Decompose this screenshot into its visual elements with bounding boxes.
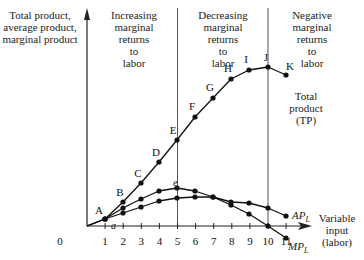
y-axis-label: Total product, average product, marginal… xyxy=(0,9,80,45)
data-point xyxy=(210,194,215,199)
region-label-line: to xyxy=(272,45,352,57)
data-point xyxy=(102,216,107,221)
region-label-line: marginal xyxy=(95,21,173,33)
tp-label-line: product xyxy=(276,102,336,114)
region-label-decreasing: Decreasing marginal returns to labor xyxy=(180,9,266,69)
data-points xyxy=(102,64,288,240)
curves xyxy=(87,67,286,238)
y-axis-label-line: Total product, xyxy=(0,9,80,21)
data-point xyxy=(192,194,197,199)
data-point xyxy=(138,196,143,201)
x-tick-label: 5 xyxy=(175,235,181,247)
data-point xyxy=(283,213,288,218)
region-label-line: marginal xyxy=(272,21,352,33)
data-point xyxy=(192,114,197,119)
ap-label: APL xyxy=(292,209,310,226)
x-axis-label-line: input xyxy=(310,224,364,236)
chart-text: 01234567891011ABCDEFGHIJKae xyxy=(57,51,294,247)
total-product-label: Total product (TP) xyxy=(276,90,336,126)
tp-label-line: Total xyxy=(276,90,336,102)
region-label-line: Decreasing xyxy=(180,9,266,21)
data-point xyxy=(174,195,179,200)
total-product-curve xyxy=(87,67,286,226)
point-label-d: D xyxy=(152,146,160,158)
data-point xyxy=(210,95,215,100)
region-label-negative: Negative marginal returns to labor xyxy=(272,9,352,69)
region-label-line: Increasing xyxy=(95,9,173,21)
data-point xyxy=(283,72,288,77)
data-point xyxy=(138,180,143,185)
mp-label-sub: L xyxy=(304,246,308,255)
point-label-a: A xyxy=(95,204,103,216)
y-axis-label-line: average product, xyxy=(0,21,80,33)
data-point xyxy=(265,64,270,69)
x-axis-label-line: Variable xyxy=(310,212,364,224)
point-label-f: F xyxy=(189,100,195,112)
ap-label-text: AP xyxy=(292,209,305,221)
data-point xyxy=(265,223,270,228)
x-axis-label: Variable input (labor) xyxy=(310,212,364,248)
x-tick-label: 8 xyxy=(229,235,235,247)
x-axis-label-line: (labor) xyxy=(310,236,364,248)
y-axis-arrow-icon xyxy=(84,8,90,20)
mp-label: MPL xyxy=(288,240,308,257)
y-axis-label-line: marginal product xyxy=(0,33,80,45)
region-label-line: returns xyxy=(95,33,173,45)
region-label-line: returns xyxy=(272,33,352,45)
point-label-c: C xyxy=(134,167,141,179)
region-label-increasing: Increasing marginal returns to labor xyxy=(95,9,173,69)
region-label-line: to xyxy=(180,45,266,57)
tp-label-line: (TP) xyxy=(276,114,336,126)
point-label-a: a xyxy=(111,220,116,231)
mp-label-text: MP xyxy=(288,240,304,252)
point-label-g: G xyxy=(206,81,214,93)
region-label-line: labor xyxy=(272,57,352,69)
data-point xyxy=(156,159,161,164)
region-label-line: marginal xyxy=(180,21,266,33)
data-point xyxy=(174,137,179,142)
data-point xyxy=(228,76,233,81)
data-point xyxy=(120,199,125,204)
data-point xyxy=(192,188,197,193)
x-tick-label: 1 xyxy=(102,235,108,247)
data-point xyxy=(120,205,125,210)
x-tick-label: 10 xyxy=(263,235,275,247)
ap-label-sub: L xyxy=(305,215,309,224)
x-tick-label: 7 xyxy=(211,235,217,247)
data-point xyxy=(138,204,143,209)
data-point xyxy=(156,188,161,193)
data-point xyxy=(156,198,161,203)
x-tick-label: 3 xyxy=(139,235,145,247)
x-tick-label: 0 xyxy=(57,235,63,247)
region-label-line: labor xyxy=(180,57,266,69)
region-label-line: labor xyxy=(95,57,173,69)
point-label-e: e xyxy=(173,177,178,188)
x-tick-label: 9 xyxy=(247,235,253,247)
point-label-b: B xyxy=(116,186,123,198)
x-tick-label: 2 xyxy=(120,235,126,247)
data-point xyxy=(120,210,125,215)
region-label-line: Negative xyxy=(272,9,352,21)
data-point xyxy=(228,199,233,204)
data-point xyxy=(246,200,251,205)
x-tick-label: 6 xyxy=(193,235,199,247)
x-tick-label: 4 xyxy=(157,235,163,247)
region-label-line: to xyxy=(95,45,173,57)
point-label-e: E xyxy=(170,124,177,136)
region-label-line: returns xyxy=(180,33,266,45)
data-point xyxy=(246,211,251,216)
data-point xyxy=(265,205,270,210)
